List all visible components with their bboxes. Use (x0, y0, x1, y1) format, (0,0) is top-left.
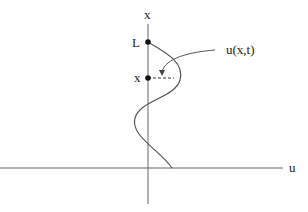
curve-u (134, 42, 180, 168)
label-arrow (162, 50, 215, 72)
curve-label: u(x,t) (226, 42, 255, 57)
string-displacement-diagram: x L x u(x,t) u (0, 0, 308, 212)
point-L (145, 39, 151, 45)
point-x (145, 75, 151, 81)
label-x: x (134, 70, 141, 85)
label-L: L (132, 35, 140, 50)
diagram-canvas: x L x u(x,t) u (0, 0, 308, 212)
x-axis-label: x (144, 7, 151, 22)
u-axis-label: u (289, 160, 296, 175)
arrow-head-icon (159, 70, 165, 76)
